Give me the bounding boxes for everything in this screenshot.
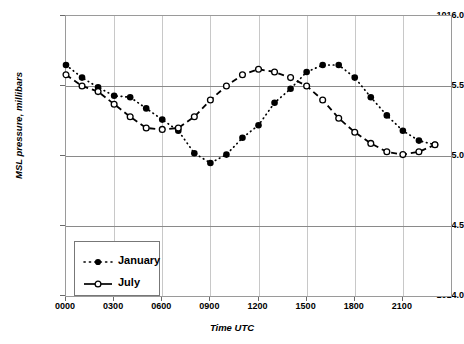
- legend-label-july: July: [118, 276, 140, 288]
- data-point: [191, 150, 198, 157]
- data-point: [79, 74, 86, 81]
- data-point: [63, 72, 69, 78]
- data-point: [191, 114, 197, 120]
- legend-item-july: July: [83, 271, 159, 293]
- data-point: [255, 122, 262, 129]
- data-point: [400, 128, 407, 135]
- x-axis-tick-mark: [209, 297, 210, 301]
- data-point: [159, 127, 165, 133]
- data-point: [400, 152, 406, 158]
- data-point: [288, 75, 294, 81]
- data-point: [271, 100, 278, 107]
- data-point: [336, 115, 342, 121]
- data-point: [384, 149, 390, 155]
- x-axis-tick-label: 1200: [235, 301, 281, 311]
- data-point: [416, 137, 423, 144]
- x-axis-tick-label: 0300: [90, 301, 136, 311]
- x-axis-tick-mark: [402, 297, 403, 301]
- x-axis-tick-mark: [161, 297, 162, 301]
- data-point: [111, 93, 118, 100]
- data-point: [304, 83, 310, 89]
- data-point: [240, 72, 246, 78]
- data-point: [256, 66, 262, 72]
- y-axis-title: MSL pressure, millibars: [13, 46, 24, 206]
- x-axis-tick-label: 1800: [331, 301, 377, 311]
- legend-label-january: January: [118, 254, 160, 266]
- data-point: [367, 94, 374, 101]
- data-point: [432, 142, 438, 148]
- data-point: [351, 74, 358, 81]
- data-point: [143, 125, 149, 131]
- data-point: [143, 105, 150, 112]
- x-axis-tick-label: 0600: [138, 301, 184, 311]
- legend: January July: [74, 241, 160, 296]
- data-point: [239, 135, 246, 142]
- x-axis-tick-mark: [306, 297, 307, 301]
- data-point: [319, 62, 326, 69]
- legend-swatch-july: [83, 276, 113, 288]
- data-point: [79, 83, 85, 89]
- data-point: [223, 151, 230, 158]
- data-point: [207, 160, 214, 167]
- series-july: [63, 66, 438, 157]
- x-axis-tick-mark: [65, 297, 66, 301]
- data-point: [352, 129, 358, 135]
- data-point: [303, 69, 310, 76]
- series-january: [63, 62, 439, 167]
- x-axis-tick-mark: [258, 297, 259, 301]
- x-axis-tick-mark: [113, 297, 114, 301]
- x-axis-tick-label: 2100: [379, 301, 425, 311]
- figure-caption: [8, 333, 458, 344]
- data-point: [175, 125, 181, 131]
- legend-swatch-january: [83, 254, 113, 266]
- data-point: [368, 141, 374, 147]
- data-point: [111, 101, 117, 107]
- x-axis-tick-mark: [354, 297, 355, 301]
- series-line: [66, 65, 435, 163]
- figure: MSL pressure, millibars 1014.01014.51015…: [0, 0, 464, 344]
- data-point: [287, 86, 294, 93]
- legend-item-january: January: [83, 249, 159, 271]
- data-point: [207, 97, 213, 103]
- data-point: [127, 94, 134, 101]
- data-point: [127, 114, 133, 120]
- data-point: [224, 83, 230, 89]
- x-axis-tick-label: 1500: [283, 301, 329, 311]
- data-point: [272, 69, 278, 75]
- data-point: [416, 149, 422, 155]
- data-point: [63, 62, 70, 69]
- data-point: [159, 116, 166, 123]
- x-axis-tick-label: 0900: [186, 301, 232, 311]
- x-axis-tick-label: 0000: [42, 301, 88, 311]
- data-point: [384, 112, 391, 119]
- series-line: [66, 69, 435, 154]
- data-point: [95, 89, 101, 95]
- x-axis-title: Time UTC: [0, 322, 464, 333]
- data-point: [320, 97, 326, 103]
- data-point: [335, 62, 342, 69]
